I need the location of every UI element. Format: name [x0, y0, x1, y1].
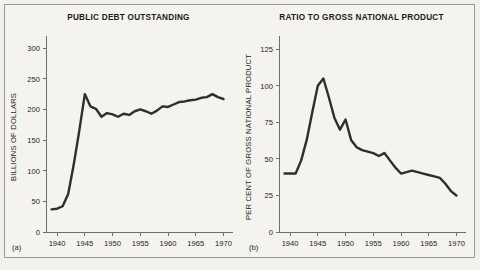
- data-series-line: [52, 94, 224, 209]
- x-tick-label: 1955: [365, 239, 382, 248]
- x-tick-label: 1945: [76, 239, 93, 248]
- plot-area-a: 0501001502002503001940194519501955196019…: [4, 4, 239, 258]
- x-tick-label: 1965: [420, 239, 437, 248]
- y-tick-label: 150: [27, 136, 40, 145]
- x-tick-label: 1945: [309, 239, 326, 248]
- panel-tag-b: (b): [249, 243, 258, 252]
- y-tick-label: 250: [27, 75, 40, 84]
- x-tick-label: 1940: [49, 239, 66, 248]
- y-tick-label: 100: [260, 82, 273, 91]
- y-tick-label: 200: [27, 105, 40, 114]
- y-tick-label: 25: [265, 191, 273, 200]
- x-tick-label: 1950: [337, 239, 354, 248]
- y-axis-title: BILLIONS OF DOLLARS: [9, 93, 18, 181]
- chart-panel-a: PUBLIC DEBT OUTSTANDING 0501001502002503…: [4, 4, 239, 258]
- x-tick-label: 1940: [282, 239, 299, 248]
- y-tick-label: 125: [260, 45, 273, 54]
- y-tick-label: 100: [27, 167, 40, 176]
- y-tick-label: 50: [32, 197, 40, 206]
- y-tick-label: 0: [269, 228, 273, 237]
- axis-lines: [46, 36, 233, 232]
- x-tick-label: 1970: [448, 239, 465, 248]
- y-tick-label: 50: [265, 155, 273, 164]
- x-tick-label: 1960: [160, 239, 177, 248]
- y-tick-label: 75: [265, 118, 273, 127]
- y-axis-title: PER CENT OF GROSS NATIONAL PRODUCT: [244, 54, 253, 220]
- figure-container: PUBLIC DEBT OUTSTANDING 0501001502002503…: [0, 0, 480, 270]
- y-tick-label: 300: [27, 44, 40, 53]
- data-series-line: [285, 79, 457, 196]
- x-tick-label: 1950: [104, 239, 121, 248]
- x-tick-label: 1965: [187, 239, 204, 248]
- plot-area-b: 0255075100125194019451950195519601965197…: [241, 4, 476, 258]
- x-tick-label: 1955: [132, 239, 149, 248]
- y-tick-label: 0: [36, 228, 40, 237]
- panel-tag-a: (a): [12, 243, 21, 252]
- x-tick-label: 1970: [215, 239, 232, 248]
- chart-panel-b: RATIO TO GROSS NATIONAL PRODUCT 02550751…: [241, 4, 476, 258]
- x-tick-label: 1960: [393, 239, 410, 248]
